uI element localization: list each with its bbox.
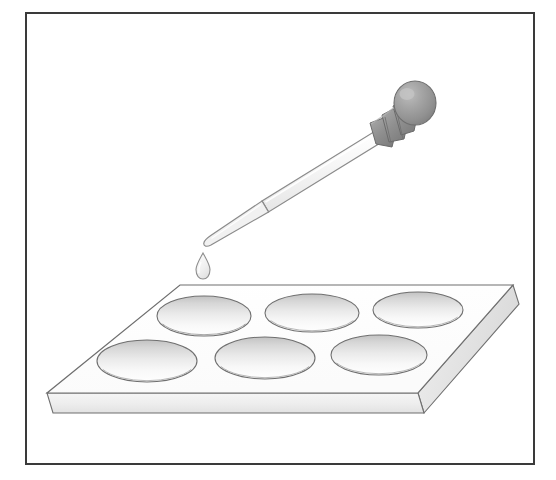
- diagram-svg: [0, 0, 556, 480]
- well-front-1: [97, 340, 197, 382]
- plate-front-edge-face: [47, 393, 424, 413]
- dropper-bulb-highlight: [400, 88, 415, 100]
- dropper-bulb: [394, 81, 436, 125]
- well-rim: [373, 292, 463, 328]
- well-rim: [157, 296, 251, 336]
- well-back-2: [265, 294, 359, 332]
- illustration-canvas: Eyedropper dispensing a drop onto a six-…: [0, 0, 556, 480]
- well-back-3: [373, 292, 463, 328]
- well-front-2: [215, 337, 315, 379]
- well-rim: [265, 294, 359, 332]
- well-back-1: [157, 296, 251, 336]
- well-rim: [331, 335, 427, 375]
- well-front-3: [331, 335, 427, 375]
- well-rim: [215, 337, 315, 379]
- well-rim: [97, 340, 197, 382]
